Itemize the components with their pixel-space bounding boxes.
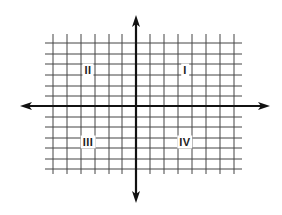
- quadrant-label-iv: IV: [177, 136, 192, 149]
- quadrant-label-i: I: [181, 64, 189, 77]
- coordinate-plane: [0, 0, 282, 215]
- grid-lines: [45, 34, 242, 174]
- quadrant-label-ii: II: [82, 64, 93, 77]
- quadrant-label-iii: III: [81, 136, 96, 149]
